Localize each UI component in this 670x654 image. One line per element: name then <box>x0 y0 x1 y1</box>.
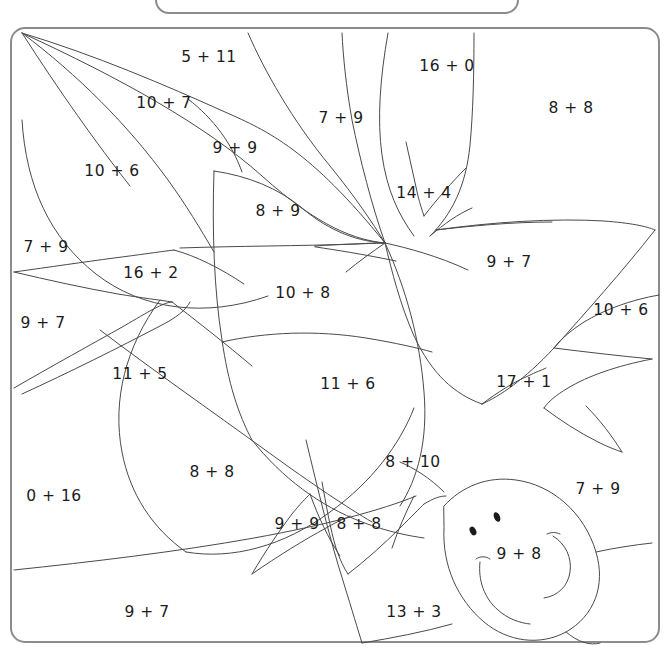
region-label-r24: 8 + 8 <box>336 515 381 533</box>
region-label-r10: 9 + 7 <box>486 253 531 271</box>
region-label-r12: 16 + 2 <box>123 264 178 282</box>
region-label-r01: 5 + 11 <box>181 48 236 66</box>
region-label-r15: 9 + 7 <box>20 314 65 332</box>
region-label-r09: 8 + 9 <box>255 202 300 220</box>
region-label-r05: 7 + 9 <box>318 109 363 127</box>
region-label-r22: 0 + 16 <box>26 487 81 505</box>
region-label-r04: 8 + 8 <box>548 99 593 117</box>
region-label-r08: 14 + 4 <box>396 184 451 202</box>
region-label-r26: 9 + 7 <box>124 603 169 621</box>
region-label-r21: 7 + 9 <box>575 480 620 498</box>
region-label-r02: 10 + 7 <box>136 94 191 112</box>
region-label-r11: 7 + 9 <box>23 238 68 256</box>
worksheet-sheet: 5 + 11 10 + 7 16 + 0 8 + 8 7 + 9 9 + 9 1… <box>0 0 670 654</box>
region-label-r17: 11 + 6 <box>320 375 375 393</box>
region-label-r18: 17 + 1 <box>496 373 551 391</box>
region-label-r23: 9 + 9 <box>274 515 319 533</box>
region-label-r20: 8 + 8 <box>189 463 234 481</box>
region-label-r03: 16 + 0 <box>419 57 474 75</box>
region-label-r27: 13 + 3 <box>386 603 441 621</box>
region-label-r13: 10 + 8 <box>275 284 330 302</box>
region-label-r07: 10 + 6 <box>84 162 139 180</box>
region-label-r16: 11 + 5 <box>112 365 167 383</box>
region-label-r06: 9 + 9 <box>212 139 257 157</box>
region-label-r25: 9 + 8 <box>496 545 541 563</box>
region-label-r19: 8 + 10 <box>385 453 440 471</box>
region-label-r14: 10 + 6 <box>593 301 648 319</box>
